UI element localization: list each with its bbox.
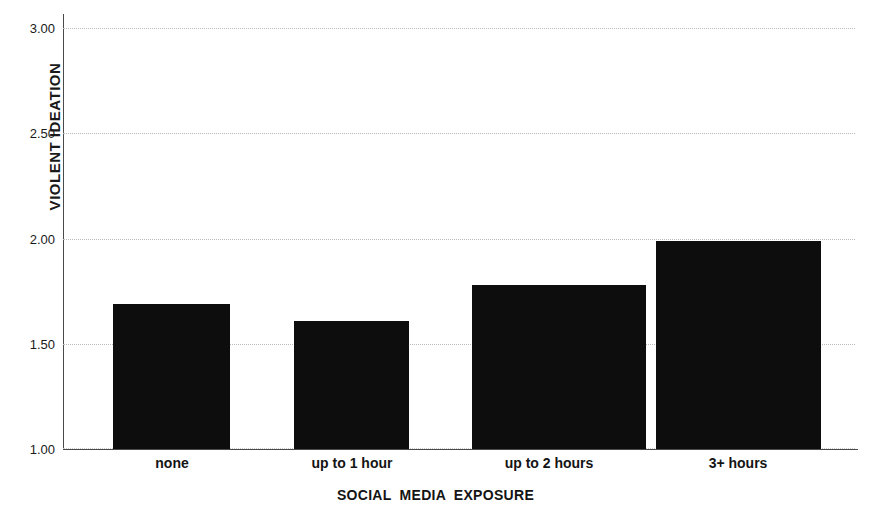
bar-up-to-2-hours (472, 285, 646, 449)
bar-none (113, 304, 230, 449)
x-tick-label-up-to-1-hour: up to 1 hour (312, 455, 393, 471)
x-tick-label-3-plus-hours: 3+ hours (709, 455, 768, 471)
x-tick-label-up-to-2-hours: up to 2 hours (505, 455, 594, 471)
y-tick-label-1-5: 1.50 (8, 337, 55, 352)
bar-up-to-1-hour (294, 321, 409, 449)
y-tick-label-2: 2.00 (8, 232, 55, 247)
y-tick-label-3: 3.00 (8, 21, 55, 36)
gridline-3 (63, 28, 855, 29)
gridline-2 (63, 239, 855, 240)
x-tick-label-none: none (155, 455, 188, 471)
y-tick-label-1: 1.00 (8, 442, 55, 457)
bar-3-plus-hours (656, 241, 821, 449)
y-tick-label-2-5: 2.50 (8, 126, 55, 141)
plot-area (63, 28, 855, 449)
bar-chart-figure: VIOLENT IDEATION 3.00 2.50 2.00 1.50 1.0… (0, 0, 871, 516)
gridline-2-5 (63, 133, 855, 134)
x-axis-line (63, 449, 858, 450)
x-axis-title: SOCIAL MEDIA EXPOSURE (0, 487, 871, 503)
